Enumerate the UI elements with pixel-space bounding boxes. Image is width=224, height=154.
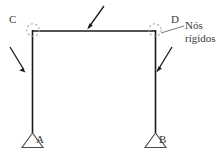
node-label-A: A	[36, 134, 44, 145]
load-arrow-left-column	[10, 47, 26, 73]
portal-frame-diagram: C D A B Nós rígidos	[0, 0, 224, 154]
node-label-C: C	[9, 14, 16, 25]
callout-leader-line	[161, 26, 184, 33]
node-label-B: B	[159, 134, 166, 145]
node-label-D: D	[171, 14, 179, 25]
load-arrow-beam	[87, 6, 104, 30]
load-arrow-right-column	[156, 47, 172, 73]
callout-line-1: Nós	[185, 19, 216, 32]
rigid-joints-callout: Nós rígidos	[185, 19, 216, 44]
callout-line-2: rígidos	[185, 32, 216, 45]
